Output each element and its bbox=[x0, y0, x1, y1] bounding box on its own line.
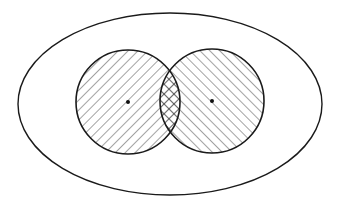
set-a-center-dot bbox=[126, 100, 130, 104]
set-b-center-dot bbox=[210, 99, 214, 103]
diagram-svg bbox=[0, 0, 341, 211]
venn-diagram: Venn diagram: two overlapping sets withi… bbox=[0, 0, 341, 211]
